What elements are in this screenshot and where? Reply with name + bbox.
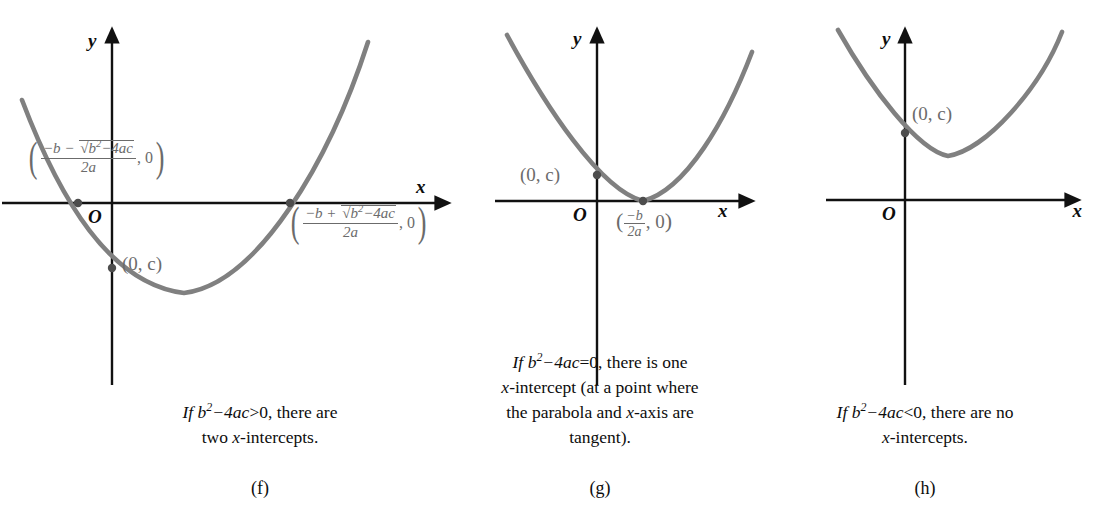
discriminant-figure: y x O ( −b − √b2−4ac 2a , 0 ) ( (0, 0, 1096, 531)
panel-h-x-axis-label: x (1073, 200, 1083, 222)
right-paren: ) (156, 140, 165, 176)
panel-g-vertex-label: (−b2a, 0) (616, 208, 672, 239)
panel-h-y-intercept-label: (0, c) (912, 103, 952, 125)
caption-tail: , there are no (922, 402, 1013, 422)
panel-f-left-root-label: ( −b − √b2−4ac 2a , 0 ) (26, 140, 167, 176)
caption-tail: , there is one (598, 352, 687, 372)
panel-f: y x O ( −b − √b2−4ac 2a , 0 ) ( (0, 0, 460, 531)
caption-line-1: If b2−4ac=0, there is one (455, 350, 745, 375)
caption-two: two (202, 427, 233, 447)
panel-g-y-axis-label: y (573, 28, 581, 50)
panel-f-caption: If b2−4ac>0, there are two x-intercepts. (120, 400, 400, 450)
caption-expr: −4ac (212, 402, 249, 422)
panel-g-y-intercept-label: (0, c) (520, 164, 560, 186)
caption-relation: <0 (903, 402, 922, 422)
caption-x-var: x (501, 377, 509, 397)
left-paren: ( (291, 205, 300, 241)
panel-h-y-axis-label: y (882, 28, 890, 50)
caption-line-1: If b2−4ac>0, there are (120, 400, 400, 425)
caption-line-2: x-intercept (at a point where (455, 375, 745, 400)
vertex-denominator: 2a (628, 224, 642, 239)
panel-h-caption: If b2−4ac<0, there are no x-intercepts. (780, 400, 1070, 450)
caption-if: If (837, 402, 852, 422)
right-paren: ) (418, 205, 427, 241)
caption-relation: >0 (249, 402, 268, 422)
panel-h-origin-label: O (882, 203, 896, 225)
left-paren: ( (616, 208, 623, 233)
panel-f-origin-label: O (88, 206, 102, 228)
caption-expr: −4ac (542, 352, 579, 372)
vertex-numerator: −b (624, 209, 644, 224)
numerator-prefix: −b + (305, 205, 340, 221)
coordinate-tail: , 0 (137, 149, 153, 167)
panel-f-right-root-label: ( −b + √b2−4ac 2a , 0 ) (288, 205, 429, 241)
panel-g-origin-label: O (573, 204, 587, 226)
caption-line-1: If b2−4ac<0, there are no (780, 400, 1070, 425)
caption-line-2: x-intercepts. (780, 425, 1070, 450)
caption-if: If (183, 402, 198, 422)
denominator: 2a (343, 224, 358, 241)
panel-g: y x O (0, c) (−b2a, 0) (430, 0, 770, 531)
radicand-rest: −4ac (363, 205, 395, 221)
panel-f-letter: (f) (120, 478, 400, 499)
panel-h: y x O (0, c) (760, 0, 1096, 531)
radicand-base: b (350, 205, 358, 221)
caption-parabola-text: the parabola and (506, 402, 626, 422)
caption-intercept-text: -intercept (at a point where (509, 377, 699, 397)
numerator-prefix: −b − (43, 140, 78, 156)
radicand-base: b (88, 140, 96, 156)
caption-line-4: tangent). (455, 425, 745, 450)
caption-relation: =0 (579, 352, 598, 372)
radicand-rest: −4ac (101, 140, 133, 156)
coordinate-tail: , 0 (399, 214, 415, 232)
panel-g-caption: If b2−4ac=0, there is one x-intercept (a… (455, 350, 745, 450)
caption-line-3: the parabola and x-axis are (455, 400, 745, 425)
coordinate-tail: , 0 (646, 211, 665, 232)
caption-x-var: x (882, 427, 890, 447)
caption-intercepts: -intercepts. (890, 427, 968, 447)
right-paren: ) (665, 208, 672, 233)
caption-line-2: two x-intercepts. (120, 425, 400, 450)
caption-x-var-2: x (626, 402, 634, 422)
panel-f-x-axis-label: x (416, 176, 426, 198)
panel-g-x-axis-label: x (718, 200, 728, 222)
caption-x-var: x (232, 427, 240, 447)
caption-intercepts: -intercepts. (240, 427, 318, 447)
panel-f-y-axis-label: y (88, 30, 96, 52)
caption-axis-text: -axis are (634, 402, 694, 422)
caption-expr: −4ac (866, 402, 903, 422)
left-paren: ( (29, 140, 38, 176)
caption-if: If (513, 352, 528, 372)
denominator: 2a (81, 159, 96, 176)
caption-tail: , there are (268, 402, 337, 422)
panel-f-y-intercept-label: (0, c) (122, 253, 162, 275)
panel-h-letter: (h) (780, 478, 1070, 499)
panel-g-letter: (g) (455, 478, 745, 499)
